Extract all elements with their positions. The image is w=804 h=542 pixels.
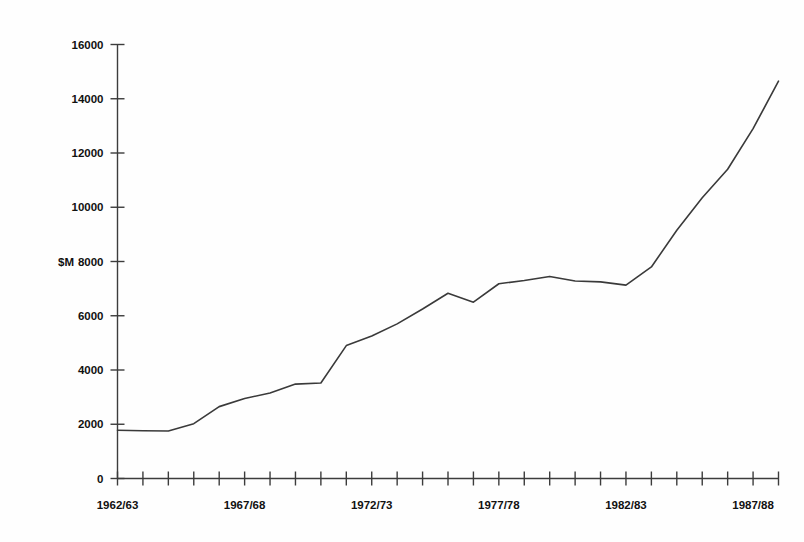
y-tick-label: 2000 — [78, 418, 104, 430]
data-series-group — [118, 81, 779, 431]
x-axis: 1962/631967/681972/731977/781982/831987/… — [97, 472, 779, 511]
y-tick-label: 12000 — [72, 147, 104, 159]
x-tick-label: 1977/78 — [478, 499, 520, 511]
y-tick-label: 8000 — [78, 256, 104, 268]
x-tick-label: 1972/73 — [351, 499, 393, 511]
chart-figure: 0200040006000800010000120001400016000 19… — [0, 0, 804, 542]
x-tick-label: 1962/63 — [97, 499, 139, 511]
y-tick-label: 10000 — [72, 201, 104, 213]
y-axis-unit-label: $M — [58, 256, 74, 268]
series-line-value — [118, 81, 779, 431]
y-tick-label: 16000 — [72, 39, 104, 51]
y-tick-label: 4000 — [78, 364, 104, 376]
x-tick-label: 1982/83 — [605, 499, 647, 511]
y-tick-label: 0 — [97, 473, 103, 485]
y-tick-label: 6000 — [78, 310, 104, 322]
line-chart: 0200040006000800010000120001400016000 19… — [0, 0, 804, 542]
y-axis-unit-label-group: $M — [58, 256, 74, 268]
x-tick-label: 1967/68 — [224, 499, 266, 511]
x-tick-label: 1987/88 — [732, 499, 774, 511]
y-axis: 0200040006000800010000120001400016000 — [72, 39, 125, 485]
y-tick-label: 14000 — [72, 93, 104, 105]
